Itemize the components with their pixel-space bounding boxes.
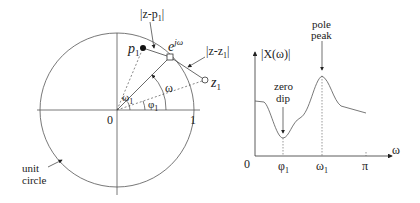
- magnitude-plot: |X(ω)| ω 0 φ1 ω1 π zero dip pole peak: [244, 18, 400, 175]
- arrow-unit-circle: [48, 160, 62, 167]
- arrow-dist-p: [150, 22, 154, 48]
- label-phi1: φ1: [148, 98, 158, 113]
- label-omega: ω: [165, 81, 173, 95]
- angle-arc-phi1: [143, 101, 145, 110]
- magnitude-curve: [255, 76, 366, 138]
- label-z1: z1: [210, 75, 221, 92]
- arrow-dist-z: [188, 57, 205, 67]
- pole-zero-diagram: p1 ejω z1 |z-p1| |z-z1| ω ω1 φ1 0 1 unit…: [0, 0, 420, 203]
- label-unit: unit: [22, 162, 39, 174]
- y-axis-label: |X(ω)|: [261, 47, 290, 61]
- label-peak: peak: [311, 29, 332, 41]
- zero-z1: [202, 77, 208, 83]
- label-circle: circle: [22, 174, 47, 186]
- label-origin: 0: [107, 113, 113, 127]
- pole-p1: [140, 45, 146, 51]
- x-axis-label: ω: [392, 143, 400, 157]
- label-one: 1: [190, 113, 196, 127]
- label-p1: p1: [127, 41, 140, 58]
- label-zero: zero: [274, 80, 293, 92]
- z-plane: p1 ejω z1 |z-p1| |z-z1| ω ω1 φ1 0 1 unit…: [22, 7, 229, 195]
- vector-z-p1: [143, 48, 170, 57]
- tick-pi: π: [362, 159, 368, 173]
- label-ejw: ejω: [168, 37, 183, 54]
- label-dist-p: |z-p1|: [140, 7, 164, 23]
- point-ejw: [167, 54, 173, 60]
- label-dist-z: |z-z1|: [206, 44, 229, 60]
- label-dip: dip: [276, 92, 291, 104]
- tick-omega1: ω1: [316, 159, 328, 175]
- tick-phi1: φ1: [278, 159, 289, 175]
- label-origin-right: 0: [244, 157, 250, 171]
